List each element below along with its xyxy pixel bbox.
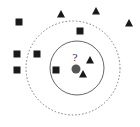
triangle-icon [125, 19, 133, 27]
class-square-points [14, 19, 84, 74]
square-icon [34, 51, 41, 58]
triangle-icon [57, 10, 65, 18]
query-point-circle [72, 65, 81, 74]
triangle-icon [79, 70, 87, 78]
square-icon [14, 67, 21, 74]
square-icon [14, 51, 21, 58]
square-icon [53, 67, 60, 74]
knn-diagram: ? [0, 0, 140, 127]
square-icon [16, 19, 23, 26]
triangle-icon [86, 56, 94, 64]
triangle-icon [92, 7, 100, 15]
query-question-mark-label: ? [72, 52, 77, 63]
square-icon [77, 28, 84, 35]
